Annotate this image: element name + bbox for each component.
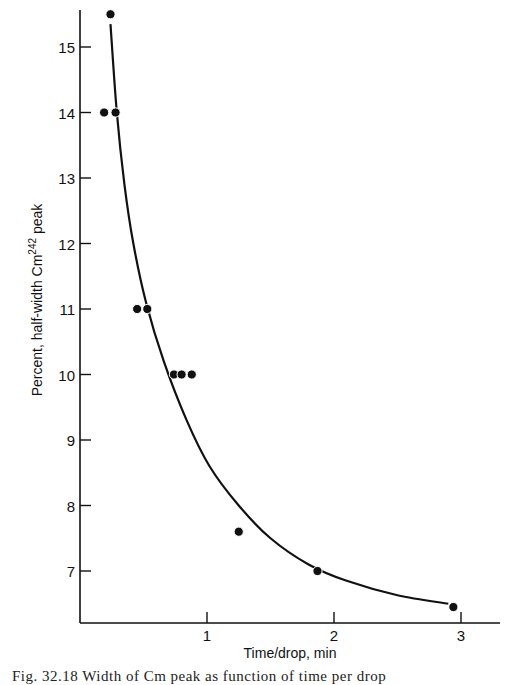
- data-point: [449, 602, 458, 611]
- y-tick-label: 7: [67, 563, 75, 580]
- y-axis-label-superscript: 242: [27, 238, 38, 255]
- y-tick-label: 8: [67, 498, 75, 515]
- y-tick-label: 9: [67, 432, 75, 449]
- x-axis-label: Time/drop, min: [244, 645, 337, 661]
- x-ticks: 123: [203, 612, 465, 644]
- y-axis-label-main: Percent, half-width Cm: [29, 255, 45, 397]
- data-point: [100, 108, 109, 117]
- data-point: [143, 304, 152, 313]
- data-point: [106, 10, 115, 19]
- x-tick-label: 2: [330, 627, 338, 644]
- y-tick-label: 13: [58, 170, 75, 187]
- x-tick-label: 1: [203, 627, 211, 644]
- y-tick-label: 15: [58, 39, 75, 56]
- data-point: [313, 566, 322, 575]
- y-axis-label: Percent, half-width Cm242 peak: [27, 203, 45, 397]
- fitted-curve: [110, 24, 448, 604]
- y-ticks: 789101112131415: [58, 39, 91, 580]
- x-tick-label: 3: [457, 627, 465, 644]
- y-tick-label: 14: [58, 105, 75, 122]
- data-point: [234, 527, 243, 536]
- y-tick-label: 10: [58, 367, 75, 384]
- data-point: [133, 304, 142, 313]
- y-tick-label: 12: [58, 236, 75, 253]
- data-point: [111, 108, 120, 117]
- y-tick-label: 11: [59, 301, 75, 318]
- axes: [80, 10, 500, 623]
- y-axis-label-suffix: peak: [29, 203, 45, 238]
- data-point: [187, 370, 196, 379]
- figure-caption: Fig. 32.18 Width of Cm peak as function …: [12, 668, 386, 685]
- data-point: [177, 370, 186, 379]
- data-points: [100, 10, 458, 612]
